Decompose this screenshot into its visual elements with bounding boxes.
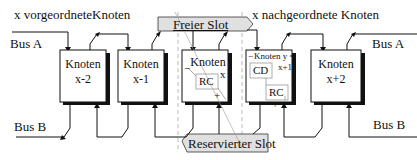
node-x-plus-1-plus-sign: +	[272, 99, 278, 110]
node-title: Knoten	[311, 57, 361, 72]
node-title: Knoten	[118, 57, 164, 72]
reserved-slot-label: Reservierter Slot	[188, 137, 276, 150]
node-x-minus-1: Knoten x-1	[118, 57, 164, 87]
node-index: x+2	[311, 72, 361, 87]
bus-b-right-label: Bus B	[373, 118, 405, 131]
node-title: Knoten	[60, 57, 106, 72]
upstream-nodes-label: x vorgeordneteKnoten	[14, 8, 130, 21]
node-x-minus-sign: −	[184, 63, 190, 74]
node-index: x-1	[118, 72, 164, 87]
free-slot-label: Freier Slot	[173, 18, 228, 31]
node-x-plus-sign: +	[214, 90, 220, 101]
node-x-plus-1-cd-box: CD	[253, 65, 268, 76]
node-x-rc-box: RC	[199, 76, 214, 87]
bus-slot-diagram: x vorgeordneteKnoten x nachgeordnete Kno…	[0, 0, 417, 160]
bus-a-left-label: Bus A	[10, 37, 42, 50]
downstream-nodes-label: x nachgeordnete Knoten	[252, 8, 379, 21]
bus-a-right-label: Bus A	[372, 37, 404, 50]
node-x-minus-2: Knoten x-2	[60, 57, 106, 87]
node-x-plus-1-index: x+1	[278, 63, 292, 72]
node-x-plus-1-title: Knoten y =	[254, 52, 295, 61]
node-x-plus-1-rc-box: RC	[269, 87, 284, 98]
node-x-plus-1-minus-sign: −	[248, 52, 253, 61]
bus-b-left-label: Bus B	[14, 120, 46, 133]
node-index: x-2	[60, 72, 106, 87]
node-x-plus-2: Knoten x+2	[311, 57, 361, 87]
node-x-index: x	[220, 69, 226, 80]
